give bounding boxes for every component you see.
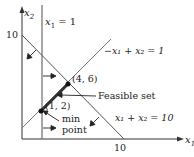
- y-axis-label: x2: [24, 7, 35, 21]
- arrow-head-icon: [51, 74, 56, 79]
- lp-diagram: x2 x1 10 10 x1 = 1 −x₁ + x₂ = 1 x₁ + x₂ …: [0, 0, 194, 157]
- point-label-4-6: (4, 6): [72, 73, 98, 84]
- x-axis-arrow-icon: [177, 137, 184, 142]
- arrow-head-icon: [51, 126, 56, 131]
- constraint-label-x1-plus-x2-eq-10: x₁ + x₂ = 10: [115, 112, 173, 123]
- feasible-set-pointer: [60, 95, 96, 96]
- feasible-set-label: Feasible set: [98, 90, 156, 101]
- arrow-head-icon: [43, 111, 48, 115]
- constraint-label-x1-eq-1: x1 = 1: [45, 16, 76, 30]
- constraint-label-neg-x1-plus-x2-eq-1: −x₁ + x₂ = 1: [104, 45, 164, 56]
- vertex-1-2: [39, 109, 44, 114]
- x-axis-label: x1: [185, 134, 194, 148]
- min-label: min: [62, 113, 80, 124]
- point-label: point: [62, 124, 87, 135]
- vertex-4-6: [66, 82, 71, 87]
- x-tick-10: 10: [114, 142, 126, 153]
- point-label-1-2: (1, 2): [45, 100, 71, 111]
- y-tick-10: 10: [6, 29, 18, 40]
